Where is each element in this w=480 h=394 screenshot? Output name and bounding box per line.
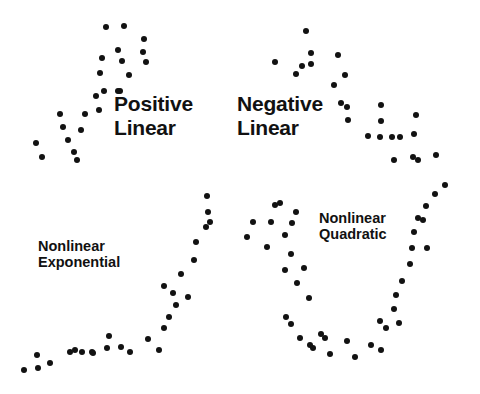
scatter-point <box>205 209 211 215</box>
scatter-point <box>103 24 109 30</box>
scatter-point <box>377 318 383 324</box>
scatter-point <box>393 292 399 298</box>
scatter-point <box>35 365 41 371</box>
scatter-point <box>204 193 210 199</box>
scatter-label-layer: PositiveLinearNegativeLinearNonlinearExp… <box>0 0 480 394</box>
scatter-point <box>345 117 351 123</box>
scatter-point <box>71 149 77 155</box>
scatter-point <box>166 314 172 320</box>
scatter-point <box>82 111 88 117</box>
scatter-dot-layer <box>0 0 480 394</box>
panel-title-line: Positive <box>114 92 193 116</box>
scatter-point <box>378 118 384 124</box>
scatter-point <box>288 251 294 257</box>
scatter-point <box>141 36 147 42</box>
scatter-point <box>185 294 191 300</box>
scatter-point <box>306 295 312 301</box>
scatter-point <box>93 93 99 99</box>
panel-title-line: Linear <box>114 116 193 140</box>
scatter-point <box>173 302 179 308</box>
scatter-point <box>397 134 403 140</box>
scatter-point <box>90 350 96 356</box>
scatter-point <box>140 49 146 55</box>
scatter-point <box>391 157 397 163</box>
scatter-point <box>399 278 405 284</box>
scatter-point <box>126 72 132 78</box>
scatter-point <box>104 345 110 351</box>
scatter-point <box>396 320 402 326</box>
scatter-point <box>318 331 324 337</box>
scatter-point <box>74 157 80 163</box>
scatter-point <box>118 344 124 350</box>
scatter-point <box>378 102 384 108</box>
panel-title-top-right: NegativeLinear <box>237 92 323 139</box>
scatterplot-figure: PositiveLinearNegativeLinearNonlinearExp… <box>0 0 480 394</box>
scatter-point <box>297 335 303 341</box>
panel-title-top-left: PositiveLinear <box>114 92 193 139</box>
scatter-point <box>415 157 421 163</box>
scatter-point <box>115 47 121 53</box>
scatter-point <box>264 244 270 250</box>
scatter-point <box>57 111 63 117</box>
panel-title-line: Quadratic <box>319 226 387 242</box>
scatter-point <box>67 349 73 355</box>
scatter-point <box>411 131 417 137</box>
scatter-point <box>301 265 307 271</box>
scatter-point <box>178 271 184 277</box>
scatter-point <box>106 333 112 339</box>
scatter-point <box>89 349 95 355</box>
scatter-point <box>352 354 358 360</box>
scatter-point <box>365 133 371 139</box>
scatter-point <box>78 127 84 133</box>
scatter-point <box>442 182 448 188</box>
scatter-point <box>47 360 53 366</box>
panel-title-line: Nonlinear <box>38 238 120 254</box>
scatter-point <box>97 70 103 76</box>
scatter-point <box>308 61 314 67</box>
scatter-point <box>289 220 295 226</box>
scatter-point <box>327 351 333 357</box>
scatter-point <box>293 71 299 77</box>
scatter-point <box>411 229 417 235</box>
scatter-point <box>407 261 413 267</box>
scatter-point <box>60 124 66 130</box>
scatter-point <box>378 347 384 353</box>
scatter-point <box>335 52 341 58</box>
scatter-point <box>344 104 350 110</box>
scatter-point <box>33 140 39 146</box>
scatter-point <box>389 134 395 140</box>
scatter-point <box>115 88 121 94</box>
scatter-point <box>368 342 374 348</box>
scatter-point <box>268 219 274 225</box>
panel-title-line: Nonlinear <box>319 210 387 226</box>
scatter-point <box>293 209 299 215</box>
scatter-point <box>409 245 415 251</box>
scatter-point <box>294 280 300 286</box>
scatter-point <box>72 347 78 353</box>
scatter-point <box>250 219 256 225</box>
scatter-point <box>415 215 421 221</box>
scatter-point <box>424 245 430 251</box>
scatter-point <box>277 200 283 206</box>
scatter-point <box>282 267 288 273</box>
scatter-point <box>145 336 151 342</box>
scatter-point <box>127 349 133 355</box>
scatter-point <box>299 63 305 69</box>
scatter-point <box>413 112 419 118</box>
scatter-point <box>193 239 199 245</box>
scatter-point <box>21 367 27 373</box>
scatter-point <box>39 154 45 160</box>
scatter-point <box>433 152 439 158</box>
scatter-point <box>331 82 337 88</box>
scatter-point <box>161 283 167 289</box>
scatter-point <box>288 321 294 327</box>
scatter-point <box>420 217 426 223</box>
scatter-point <box>96 107 102 113</box>
scatter-point <box>307 342 313 348</box>
scatter-point <box>121 23 127 29</box>
panel-title-bottom-right: NonlinearQuadratic <box>319 210 387 242</box>
scatter-point <box>203 224 209 230</box>
scatter-point <box>272 202 278 208</box>
scatter-point <box>156 347 162 353</box>
panel-title-line: Negative <box>237 92 323 116</box>
